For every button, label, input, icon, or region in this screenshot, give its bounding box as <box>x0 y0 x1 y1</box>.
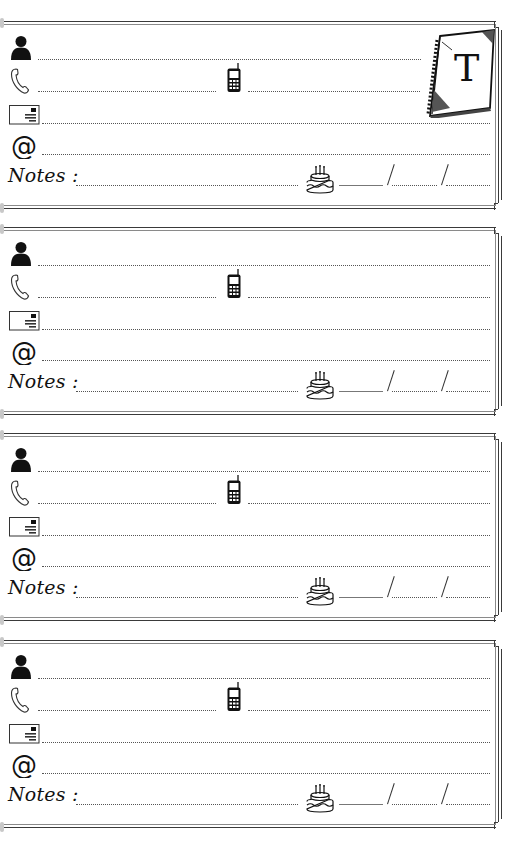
date-separator <box>441 164 449 185</box>
mobile-phone-icon <box>226 475 242 505</box>
date-separator <box>387 783 395 804</box>
email-field[interactable] <box>42 566 490 567</box>
birthday-month-field[interactable] <box>392 597 437 598</box>
page-edge-shadow <box>0 430 4 440</box>
contact-card-4: @ Notes : <box>0 640 532 830</box>
card-border-right-inner <box>495 437 496 617</box>
notes-field[interactable] <box>76 597 298 598</box>
card-border-bottom <box>2 620 496 621</box>
card-border-top <box>2 640 496 641</box>
notes-label: Notes : <box>8 576 79 598</box>
card-border-right-inner <box>495 644 496 824</box>
card-border-top-inner <box>2 436 496 437</box>
contact-card-3: @ Notes : <box>0 433 532 623</box>
card-border-bottom <box>2 208 496 209</box>
page-edge-shadow <box>0 615 4 625</box>
tab-letter: T <box>454 46 479 90</box>
phone-field[interactable] <box>38 91 216 92</box>
birthday-day-field[interactable] <box>339 804 383 805</box>
address-field[interactable] <box>42 742 490 743</box>
svg-text:@: @ <box>11 133 37 159</box>
birthday-year-field[interactable] <box>446 391 490 392</box>
at-sign-icon: @ <box>11 545 37 571</box>
telephone-handset-icon <box>10 274 30 300</box>
birthday-cake-icon <box>304 783 336 813</box>
date-separator <box>387 576 395 597</box>
card-border-top <box>2 21 496 22</box>
mobile-phone-icon <box>226 682 242 712</box>
mobile-phone-icon <box>226 269 242 299</box>
email-field[interactable] <box>42 154 490 155</box>
page-edge-shadow <box>0 224 4 234</box>
at-sign-icon: @ <box>11 752 37 778</box>
telephone-handset-icon <box>10 687 30 713</box>
address-field[interactable] <box>42 123 490 124</box>
person-icon <box>10 654 32 679</box>
birthday-year-field[interactable] <box>446 185 490 186</box>
phone-field[interactable] <box>38 503 216 504</box>
mobile-field[interactable] <box>248 91 420 92</box>
card-border-right-outer <box>501 30 502 200</box>
card-border-right-outer <box>501 442 502 612</box>
card-border-bottom-inner <box>2 411 496 412</box>
alphabet-tab[interactable]: T <box>424 28 496 118</box>
phone-field[interactable] <box>38 297 216 298</box>
birthday-cake-icon <box>304 576 336 606</box>
name-field[interactable] <box>38 265 490 266</box>
date-separator <box>441 576 449 597</box>
page-edge-shadow <box>0 822 4 832</box>
birthday-year-field[interactable] <box>446 597 490 598</box>
birthday-cake-icon <box>304 370 336 400</box>
birthday-day-field[interactable] <box>339 185 383 186</box>
mobile-field[interactable] <box>248 710 490 711</box>
person-icon <box>10 241 32 266</box>
mobile-field[interactable] <box>248 503 490 504</box>
phone-field[interactable] <box>38 710 216 711</box>
card-border-right <box>498 439 499 615</box>
name-field[interactable] <box>38 59 421 60</box>
name-field[interactable] <box>38 678 490 679</box>
envelope-icon <box>9 517 40 537</box>
date-separator <box>441 783 449 804</box>
at-sign-icon: @ <box>11 133 37 159</box>
notes-label: Notes : <box>8 164 79 186</box>
envelope-icon <box>9 105 40 125</box>
card-border-top <box>2 433 496 434</box>
card-border-top-inner <box>2 643 496 644</box>
page-edge-shadow <box>0 409 4 419</box>
birthday-day-field[interactable] <box>339 391 383 392</box>
card-border-right-inner <box>495 231 496 411</box>
person-icon <box>10 447 32 472</box>
notes-label: Notes : <box>8 370 79 392</box>
card-border-top <box>2 227 496 228</box>
name-field[interactable] <box>38 471 490 472</box>
birthday-year-field[interactable] <box>446 804 490 805</box>
person-icon <box>10 35 32 60</box>
email-field[interactable] <box>42 773 490 774</box>
birthday-month-field[interactable] <box>392 804 437 805</box>
mobile-field[interactable] <box>248 297 490 298</box>
notes-field[interactable] <box>76 804 298 805</box>
card-border-bottom-inner <box>2 824 496 825</box>
birthday-month-field[interactable] <box>392 391 437 392</box>
telephone-handset-icon <box>10 480 30 506</box>
envelope-icon <box>9 724 40 744</box>
card-border-bottom-inner <box>2 617 496 618</box>
svg-text:@: @ <box>11 545 37 571</box>
email-field[interactable] <box>42 360 490 361</box>
address-field[interactable] <box>42 535 490 536</box>
card-border-top-inner <box>2 230 496 231</box>
birthday-month-field[interactable] <box>392 185 437 186</box>
card-border-right-outer <box>501 649 502 819</box>
address-field[interactable] <box>42 329 490 330</box>
card-border-top-inner <box>2 24 496 25</box>
contact-card-2: @ Notes : <box>0 227 532 417</box>
birthday-day-field[interactable] <box>339 597 383 598</box>
birthday-cake-icon <box>304 164 336 194</box>
svg-text:@: @ <box>11 339 37 365</box>
card-border-bottom <box>2 414 496 415</box>
card-border-right <box>498 27 499 203</box>
notes-field[interactable] <box>76 391 298 392</box>
at-sign-icon: @ <box>11 339 37 365</box>
notes-field[interactable] <box>76 185 298 186</box>
